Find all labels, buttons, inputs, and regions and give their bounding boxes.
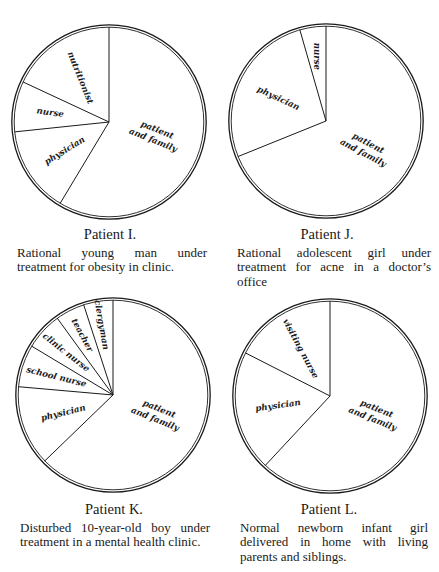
pie-chart-patient-j: nursephysicianpatientand family [219, 0, 439, 230]
pie-chart-patient-i: nutritionistnursephysicianpatientand fam… [0, 0, 219, 230]
pie-slice-divider [238, 121, 326, 157]
pie-slice-label-nurse: nurse [36, 105, 65, 119]
pie-slice-label-physician: physician [256, 84, 302, 112]
chart-panel-patient-k: clergymanteacherclinic nurseschool nurse… [0, 272, 219, 558]
pie-slice-label-clergyman: clergyman [93, 299, 112, 350]
pie-slice-divider [15, 122, 110, 132]
chart-title-patient-k: Patient K. [34, 501, 194, 518]
chart-panel-patient-i: nutritionistnursephysicianpatientand fam… [0, 0, 219, 286]
pie-slice-divider [60, 122, 109, 203]
chart-title-patient-i: Patient I. [30, 226, 190, 243]
chart-title-patient-l: Patient L. [249, 501, 409, 518]
pie-slice-divider [18, 387, 113, 395]
pie-chart-patient-k: clergymanteacherclinic nurseschool nurse… [0, 272, 219, 502]
pie-slice-label-physician: physician [255, 397, 302, 413]
pie-slice-label-physician: physician [40, 402, 87, 423]
chart-description-patient-l: Normal newborn infant girl delivered in … [240, 521, 428, 564]
pie-slice-label-visiting-nurse: visiting nurse [281, 317, 321, 381]
pie-chart-patient-l: visiting nursephysicianpatientand family [219, 272, 439, 502]
pie-slice-label-patient-and-family: patientand family [338, 127, 394, 170]
chart-panel-patient-l: visiting nursephysicianpatientand family… [219, 272, 438, 558]
pie-slice-divider [23, 82, 109, 122]
pie-slice-label-nurse: nurse [312, 43, 322, 71]
pie-slice-label-patient-and-family: patientand family [130, 395, 186, 434]
pie-slice-label-nutritionist: nutritionist [66, 50, 96, 105]
pie-slice-label-patient-and-family: patientand family [347, 394, 403, 433]
chart-title-patient-j: Patient J. [247, 226, 407, 243]
pie-slice-label-teacher: teacher [70, 317, 97, 355]
pie-slice-label-physician: physician [42, 134, 86, 167]
pie-slice-label-patient-and-family: patientand family [128, 116, 184, 155]
chart-panel-patient-j: nursephysicianpatientand family Patient … [219, 0, 438, 286]
chart-description-patient-i: Rational young man under treatment for o… [17, 246, 207, 275]
chart-description-patient-k: Disturbed 10-year-old boy under treatmen… [20, 521, 210, 550]
